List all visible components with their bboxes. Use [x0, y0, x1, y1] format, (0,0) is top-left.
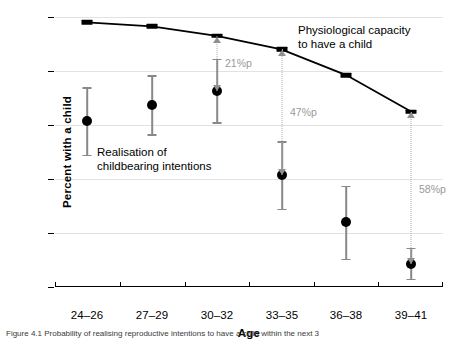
ci-cap-low-30-32	[213, 122, 222, 124]
plot-area: 100 80 60 40 20 0 Percent with a child	[55, 17, 443, 287]
gap-arrow-down-21	[213, 85, 221, 91]
gap-arrow-down-58	[407, 258, 415, 264]
gap-arrow-down-47	[278, 169, 286, 175]
data-point-36-38	[341, 217, 351, 227]
callout-capacity-line1: Physiological capacity	[298, 23, 411, 37]
callout-realisation-line2: childbearing intentions	[97, 159, 211, 173]
gap-line-21	[217, 36, 218, 91]
ci-cap-high-36-38	[342, 186, 351, 188]
ci-cap-low-24-26	[83, 155, 92, 157]
x-tick-label-33-35: 33–35	[266, 309, 298, 321]
gap-label-58: 58%p	[419, 183, 446, 195]
x-tick-label-39-41: 39–41	[395, 309, 427, 321]
ci-cap-low-36-38	[342, 259, 351, 261]
gap-line-47	[282, 49, 283, 175]
ci-cap-low-33-35	[278, 209, 287, 211]
x-axis-cap-right	[442, 282, 443, 287]
x-tick-mark-5	[378, 282, 379, 287]
gap-label-47: 47%p	[290, 106, 317, 118]
gap-arrow-up-47	[278, 50, 286, 56]
gap-label-21: 21%p	[225, 57, 252, 69]
data-point-27-29	[147, 100, 157, 110]
ci-cap-low-39-41	[407, 279, 416, 281]
x-tick-mark-1	[120, 282, 121, 287]
gap-line-58	[411, 112, 412, 265]
x-tick-label-27-29: 27–29	[136, 309, 168, 321]
x-axis-cap-left	[55, 282, 56, 287]
data-point-24-26	[82, 116, 92, 126]
y-tick-mark-80	[48, 71, 54, 72]
ci-cap-high-27-29	[148, 75, 157, 77]
y-tick-mark-40	[48, 179, 54, 180]
callout-realisation: Realisation of childbearing intentions	[97, 145, 211, 173]
x-tick-mark-3	[249, 282, 250, 287]
y-tick-mark-20	[48, 233, 54, 234]
y-tick-mark-0	[48, 287, 54, 288]
figure-caption: Figure 4.1 Probability of realising repr…	[6, 329, 454, 339]
callout-realisation-line1: Realisation of	[97, 145, 211, 159]
callout-capacity-line2: to have a child	[298, 37, 411, 51]
x-tick-label-36-38: 36–38	[330, 309, 362, 321]
capacity-marker-36-38	[341, 73, 352, 78]
y-tick-mark-100	[48, 17, 54, 18]
x-tick-label-30-32: 30–32	[201, 309, 233, 321]
gap-arrow-up-21	[213, 37, 221, 43]
capacity-marker-24-26	[82, 20, 93, 25]
x-tick-label-24-26: 24–26	[71, 309, 103, 321]
callout-capacity: Physiological capacity to have a child	[298, 23, 411, 51]
ci-cap-low-27-29	[148, 134, 157, 136]
ci-cap-high-24-26	[83, 87, 92, 89]
y-tick-mark-60	[48, 125, 54, 126]
capacity-marker-27-29	[147, 24, 158, 29]
x-tick-mark-4	[314, 282, 315, 287]
gap-arrow-up-58	[407, 112, 415, 118]
x-tick-mark-2	[185, 282, 186, 287]
